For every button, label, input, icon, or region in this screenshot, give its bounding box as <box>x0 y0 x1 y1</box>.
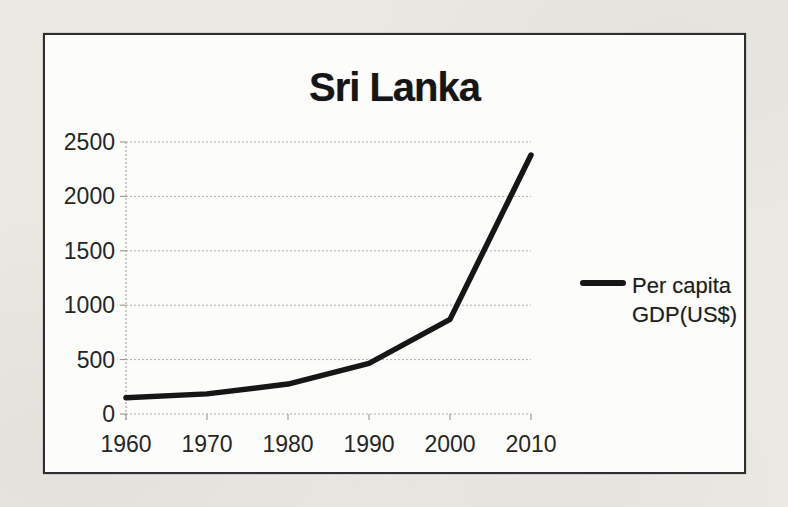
y-tick-label: 2000 <box>64 183 115 209</box>
x-tick-label: 1960 <box>100 431 151 457</box>
legend-line-swatch <box>580 280 626 286</box>
chart-title: Sri Lanka <box>45 65 744 110</box>
y-tick-label: 2500 <box>64 129 115 155</box>
y-tick-label: 0 <box>102 401 115 427</box>
x-tick-label: 1980 <box>262 431 313 457</box>
y-tick-label: 1500 <box>64 238 115 264</box>
y-tick-label: 500 <box>77 347 115 373</box>
x-tick-label: 2010 <box>505 431 556 457</box>
chart-frame: 0500100015002000250019601970198019902000… <box>43 33 746 474</box>
x-tick-label: 1970 <box>181 431 232 457</box>
y-tick-label: 1000 <box>64 292 115 318</box>
legend: Per capita GDP(US$) <box>580 271 752 329</box>
scanned-page-background: 0500100015002000250019601970198019902000… <box>0 0 788 507</box>
legend-label: Per capita GDP(US$) <box>632 271 752 329</box>
x-tick-label: 1990 <box>343 431 394 457</box>
data-line-series <box>126 155 531 398</box>
x-tick-label: 2000 <box>424 431 475 457</box>
